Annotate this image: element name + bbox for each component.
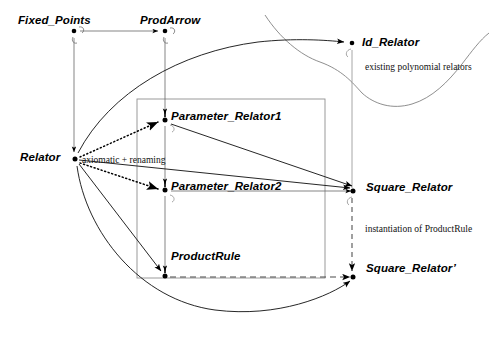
node-dot-productrule[interactable] (163, 274, 168, 279)
node-label-square-relator: Square_Relator (366, 181, 452, 193)
self-loop-icon-parameter-relator1 (170, 125, 174, 132)
node-dot-fixed-points[interactable] (72, 29, 77, 34)
node-dot-parameter-relator2[interactable] (163, 188, 168, 193)
edge-relator-to-parameter-relator1-dotted (80, 122, 158, 157)
node-dot-prodarrow[interactable] (163, 29, 168, 34)
edge-relator-to-id-relator-curve (78, 40, 344, 153)
annotation-existing-polynomial-relators: existing polynomial relators (365, 62, 472, 72)
node-dot-id-relator[interactable] (350, 41, 355, 46)
node-label-relator: Relator (20, 151, 60, 163)
node-label-fixed-points: Fixed_Points (18, 14, 91, 26)
node-label-prodarrow: ProdArrow (140, 14, 200, 26)
existing-relators-blob (265, 15, 489, 106)
self-loop-icon-square-relator (347, 197, 352, 205)
node-label-square-relator-prime: Square_Relator’ (366, 262, 456, 274)
edge-relator-to-productrule (79, 164, 161, 271)
annotation-axiomatic-renaming: axiomatic + renaming (82, 155, 165, 165)
node-dot-relator[interactable] (73, 157, 78, 162)
self-loop-icon-parameter-relator2 (170, 195, 174, 202)
node-label-id-relator: Id_Relator (362, 36, 419, 48)
annotation-instantiation-of-productrule: instantiation of ProductRule (365, 224, 472, 234)
node-dot-parameter-relator1[interactable] (163, 118, 168, 123)
diagram-svg (0, 0, 490, 337)
node-label-parameter-relator1: Parameter_Relator1 (171, 110, 281, 122)
node-dot-square-relator-prime[interactable] (351, 275, 356, 280)
diagram-canvas: Fixed_Points ProdArrow Id_Relator Relato… (0, 0, 490, 337)
node-label-productrule: ProductRule (171, 250, 240, 262)
node-label-parameter-relator2: Parameter_Relator2 (171, 180, 281, 192)
node-dot-square-relator[interactable] (351, 189, 356, 194)
self-loop-icon-id-relator (346, 49, 351, 57)
